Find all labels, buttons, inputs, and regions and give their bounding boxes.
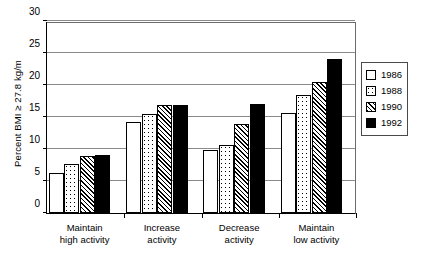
gridline [47, 20, 355, 21]
legend-item: 1986 [366, 67, 402, 83]
x-tick-mark [279, 213, 280, 218]
bar-chart: Percent BMI ≥ 27.8 kg/m 051015202530 Mai… [0, 0, 426, 268]
legend-swatch-1988 [366, 86, 376, 96]
y-tick-label: 30 [29, 7, 40, 17]
legend-swatch-1986 [366, 70, 376, 80]
y-tick-mark [43, 148, 47, 149]
y-tick-mark [43, 116, 47, 117]
y-tick-mark [43, 20, 47, 21]
plot-area: 051015202530 [46, 22, 355, 214]
legend-label: 1986 [381, 70, 402, 80]
bar [327, 59, 342, 213]
bar [95, 155, 110, 213]
y-tick-label: 5 [34, 167, 40, 177]
y-tick-label: 25 [29, 39, 40, 49]
y-axis-title: Percent BMI ≥ 27.8 kg/m [12, 34, 23, 194]
legend-item: 1992 [366, 115, 402, 131]
bar [142, 114, 157, 213]
x-tick-mark [356, 213, 357, 218]
bar-group [203, 22, 265, 213]
legend-label: 1990 [381, 102, 402, 112]
bar [80, 156, 95, 213]
y-tick-mark [43, 84, 47, 85]
bar [157, 105, 172, 213]
legend-item: 1988 [366, 83, 402, 99]
y-tick-label: 15 [29, 103, 40, 113]
bar [173, 105, 188, 213]
bar-group [126, 22, 188, 213]
bar [312, 82, 327, 213]
bar [126, 122, 141, 213]
bar [64, 164, 79, 213]
y-axis-title-text: Percent BMI ≥ 27.8 kg/m [12, 60, 23, 167]
legend-label: 1988 [381, 86, 402, 96]
x-axis-category-line: low activity [268, 234, 364, 246]
y-tick-mark [43, 52, 47, 53]
legend-label: 1992 [381, 118, 402, 128]
y-tick-label: 10 [29, 135, 40, 145]
bar [219, 145, 234, 213]
x-tick-mark [124, 213, 125, 218]
y-tick-mark [43, 180, 47, 181]
legend-swatch-1992 [366, 118, 376, 128]
y-tick-label: 0 [34, 199, 40, 209]
bar [203, 150, 218, 213]
bar [281, 113, 296, 213]
x-axis-category-label: Maintainlow activity [268, 222, 364, 245]
bar [234, 124, 249, 213]
bar-group [281, 22, 343, 213]
x-tick-mark [202, 213, 203, 218]
x-axis-category-line: Maintain [268, 222, 364, 234]
bar [49, 173, 64, 213]
bar-group [49, 22, 111, 213]
y-tick-mark [43, 212, 47, 213]
legend-item: 1990 [366, 99, 402, 115]
bar [250, 104, 265, 213]
legend-swatch-1990 [366, 102, 376, 112]
bar [296, 95, 311, 213]
y-tick-label: 20 [29, 71, 40, 81]
legend: 1986198819901992 [361, 62, 408, 136]
